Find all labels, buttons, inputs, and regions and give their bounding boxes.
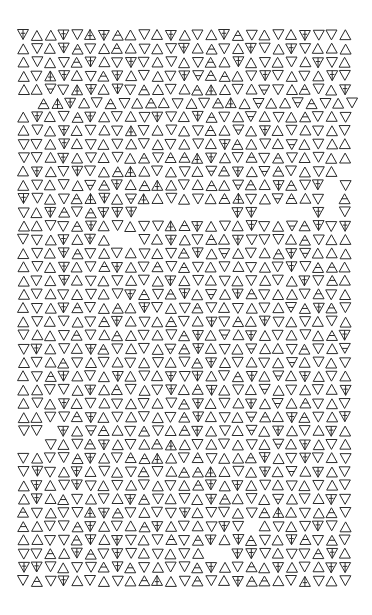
up-triangle-icon [72, 153, 83, 163]
up-triangle-with-bar-icon [85, 549, 96, 559]
down-triangle-icon [313, 126, 324, 136]
up-triangle-icon [273, 290, 284, 300]
up-triangle-icon [259, 426, 270, 436]
down-triangle-with-stem-icon [112, 536, 123, 546]
down-triangle-icon [98, 494, 109, 504]
up-triangle-icon [233, 453, 244, 463]
up-triangle-icon [18, 317, 29, 327]
down-triangle-icon [179, 167, 190, 177]
up-triangle-with-bar-icon [206, 235, 217, 245]
up-triangle-with-stem-icon [165, 440, 176, 450]
down-triangle-with-bar-icon [246, 425, 257, 435]
up-triangle-icon [152, 330, 163, 340]
up-triangle-with-bar-icon [152, 262, 163, 272]
up-triangle-with-bar-icon [219, 71, 230, 81]
down-triangle-icon [300, 262, 311, 272]
up-triangle-icon [246, 303, 257, 313]
up-triangle-icon [272, 548, 283, 558]
down-triangle-icon [152, 303, 163, 313]
up-triangle-icon [71, 139, 82, 149]
up-triangle-icon [125, 222, 136, 232]
down-triangle-with-stem-icon [312, 180, 323, 190]
down-triangle-with-stem-icon [313, 221, 324, 231]
down-triangle-icon [206, 576, 217, 586]
up-triangle-with-bar-icon [99, 317, 110, 327]
up-triangle-with-bar-icon [245, 453, 256, 463]
up-triangle-icon [313, 71, 324, 81]
down-triangle-with-stem-icon [58, 399, 69, 409]
up-triangle-with-bar-icon [313, 263, 324, 273]
up-triangle-icon [152, 140, 163, 150]
up-triangle-icon [326, 576, 337, 586]
down-triangle-icon [219, 439, 230, 449]
down-triangle-icon [18, 234, 29, 244]
up-triangle-icon [98, 372, 109, 382]
down-triangle-icon [219, 262, 230, 272]
up-triangle-icon [286, 398, 297, 408]
up-triangle-with-bar-icon [339, 194, 350, 204]
down-triangle-icon [152, 507, 163, 517]
down-triangle-icon [192, 262, 203, 272]
up-triangle-icon [98, 577, 109, 587]
down-triangle-with-stem-icon [99, 193, 110, 203]
up-triangle-icon [18, 57, 29, 67]
up-triangle-icon [340, 522, 351, 532]
down-triangle-icon [165, 562, 176, 572]
down-triangle-icon [166, 193, 177, 203]
down-triangle-with-stem-icon [18, 30, 29, 40]
up-triangle-icon [18, 413, 29, 423]
up-triangle-icon [132, 98, 143, 108]
down-triangle-icon [58, 316, 69, 326]
up-triangle-icon [99, 125, 110, 135]
down-triangle-with-stem-icon [152, 112, 163, 122]
down-triangle-icon [272, 70, 283, 80]
down-triangle-icon [179, 372, 190, 382]
up-triangle-icon [45, 303, 56, 313]
down-triangle-icon [31, 235, 42, 245]
down-triangle-icon [313, 536, 324, 546]
down-triangle-with-stem-icon [192, 399, 203, 409]
down-triangle-icon [58, 58, 69, 68]
up-triangle-icon [205, 275, 216, 285]
up-triangle-icon [219, 453, 230, 463]
up-triangle-icon [259, 180, 270, 190]
up-triangle-icon [259, 521, 270, 531]
up-triangle-icon [44, 316, 55, 326]
down-triangle-icon [300, 317, 311, 327]
down-triangle-with-stem-icon [58, 153, 69, 163]
down-triangle-with-stem-icon [245, 43, 256, 53]
down-triangle-icon [300, 44, 311, 54]
up-triangle-icon [273, 385, 284, 395]
down-triangle-icon [58, 453, 69, 463]
down-triangle-with-stem-icon [286, 44, 297, 54]
up-triangle-icon [166, 466, 177, 476]
up-triangle-with-bar-icon [71, 194, 82, 204]
up-triangle-with-bar-icon [139, 426, 150, 436]
down-triangle-icon [165, 508, 176, 518]
down-triangle-with-stem-icon [178, 43, 189, 53]
up-triangle-icon [286, 234, 297, 244]
up-triangle-icon [18, 125, 29, 135]
down-triangle-icon [31, 357, 42, 367]
down-triangle-with-stem-icon [340, 563, 351, 573]
down-triangle-icon [219, 413, 230, 423]
down-triangle-icon [259, 303, 270, 313]
down-triangle-icon [112, 480, 123, 490]
down-triangle-with-stem-icon [45, 207, 56, 217]
down-triangle-icon [111, 453, 122, 463]
up-triangle-icon [125, 262, 136, 272]
down-triangle-with-stem-icon [259, 126, 270, 136]
up-triangle-icon [138, 535, 149, 545]
up-triangle-icon [287, 85, 298, 95]
down-triangle-with-bar-icon [193, 71, 204, 81]
up-triangle-icon [300, 57, 311, 67]
up-triangle-icon [165, 167, 176, 177]
up-triangle-with-bar-icon [71, 412, 82, 422]
down-triangle-icon [286, 125, 297, 135]
down-triangle-with-stem-icon [31, 344, 42, 354]
up-triangle-icon [45, 289, 56, 299]
down-triangle-icon [166, 125, 177, 135]
down-triangle-icon [31, 71, 42, 81]
up-triangle-icon [18, 249, 29, 259]
down-triangle-icon [98, 549, 109, 559]
